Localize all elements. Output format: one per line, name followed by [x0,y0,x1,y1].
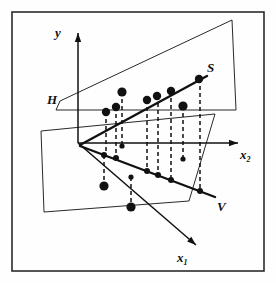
diagram-svg: yHSVx2x1 [0,0,276,283]
label-plane-h: H [46,92,58,107]
label-x1-subscript: 1 [184,258,188,267]
data-point-observations-1 [119,143,124,148]
data-point-observations-2 [178,101,187,110]
data-point-s-4 [167,87,175,95]
label-y-axis: y [53,25,61,40]
data-point-v-5 [197,188,203,194]
label-x2-subscript: 2 [246,155,251,164]
data-point-observations-4 [99,181,108,190]
data-point-v-2 [144,168,150,174]
data-point-s-2 [143,96,151,104]
data-point-s-3 [153,92,161,100]
label-line-v: V [217,199,227,214]
data-point-v-0 [101,152,107,158]
data-point-v-4 [168,177,174,183]
data-point-s-0 [102,108,110,116]
figure-canvas: yHSVx2x1 [0,0,276,283]
data-point-v-1 [113,155,119,161]
data-point-observations-6 [126,202,135,211]
data-point-v-3 [155,172,161,178]
data-point-observations-0 [117,87,126,96]
data-point-observations-3 [180,156,185,161]
label-line-s: S [207,60,214,75]
data-point-s-5 [195,75,203,83]
data-point-s-1 [112,103,120,111]
data-point-observations-5 [128,174,133,179]
